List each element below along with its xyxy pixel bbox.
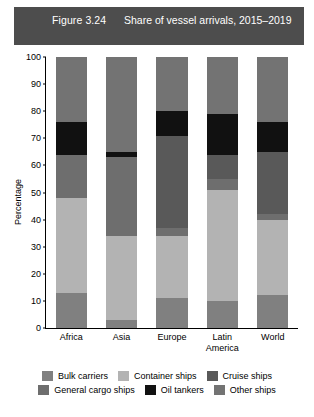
legend-item[interactable]: Oil tankers — [145, 385, 204, 395]
bar-segment[interactable] — [106, 320, 137, 328]
figure-number: Figure 3.24 — [52, 14, 106, 26]
stacked-bar[interactable]: Europe — [156, 57, 187, 328]
y-tick-label: 90 — [31, 79, 41, 89]
bar-segment[interactable] — [156, 136, 187, 228]
bar-segment[interactable] — [156, 57, 187, 111]
bar-segment[interactable] — [207, 114, 238, 155]
legend-label: Bulk carriers — [58, 371, 108, 381]
legend-item[interactable]: General cargo ships — [38, 385, 135, 395]
bar-segment[interactable] — [207, 155, 238, 179]
legend-swatch — [145, 385, 156, 395]
bar-segment[interactable] — [56, 155, 87, 198]
legend-swatch — [42, 371, 53, 381]
bar-segment[interactable] — [156, 228, 187, 236]
bar-segment[interactable] — [56, 122, 87, 155]
y-tick-mark — [43, 165, 46, 166]
bar-segment[interactable] — [106, 57, 137, 152]
bar-segment[interactable] — [257, 152, 288, 214]
y-tick-label: 50 — [31, 188, 41, 198]
stacked-bar[interactable]: Africa — [56, 57, 87, 328]
y-tick-mark — [43, 328, 46, 329]
legend-label: Oil tankers — [161, 385, 204, 395]
bar-segment[interactable] — [106, 236, 137, 320]
y-axis-title: Percentage — [13, 152, 23, 252]
chart-container: Percentage 0102030405060708090100 Africa… — [0, 45, 314, 345]
bar-segment[interactable] — [56, 293, 87, 328]
y-tick-label: 30 — [31, 242, 41, 252]
y-tick-mark — [43, 57, 46, 58]
y-tick-mark — [43, 138, 46, 139]
y-tick-mark — [43, 300, 46, 301]
bar-segment[interactable] — [106, 157, 137, 236]
y-tick-mark — [43, 246, 46, 247]
legend-swatch — [118, 371, 129, 381]
y-tick-label: 0 — [36, 323, 41, 333]
legend-label: Cruise ships — [223, 371, 273, 381]
legend-label: Other ships — [230, 385, 276, 395]
y-tick-mark — [43, 84, 46, 85]
bar-segment[interactable] — [156, 111, 187, 135]
y-tick-mark — [43, 273, 46, 274]
bar-segment[interactable] — [207, 190, 238, 301]
figure-title: Share of vessel arrivals, 2015–2019 — [124, 14, 299, 27]
y-tick-label: 60 — [31, 160, 41, 170]
y-tick-mark — [43, 192, 46, 193]
legend-row: Bulk carriersContainer shipsCruise ships — [0, 371, 314, 381]
bar-segment[interactable] — [257, 295, 288, 328]
bar-segment[interactable] — [207, 57, 238, 114]
bar-segment[interactable] — [56, 57, 87, 122]
bar-segment[interactable] — [207, 301, 238, 328]
y-tick-mark — [43, 219, 46, 220]
legend-label: Container ships — [134, 371, 197, 381]
y-tick-label: 100 — [26, 52, 41, 62]
y-tick-label: 10 — [31, 296, 41, 306]
y-tick-label: 20 — [31, 269, 41, 279]
stacked-bar[interactable]: Asia — [106, 57, 137, 328]
y-tick-label: 70 — [31, 133, 41, 143]
y-tick-label: 80 — [31, 106, 41, 116]
bar-segment[interactable] — [156, 236, 187, 298]
y-tick-label: 40 — [31, 215, 41, 225]
bar-segment[interactable] — [207, 179, 238, 190]
legend-item[interactable]: Bulk carriers — [42, 371, 108, 381]
stacked-bar[interactable]: World — [257, 57, 288, 328]
bar-segment[interactable] — [156, 298, 187, 328]
x-axis-label: Asia — [113, 332, 131, 343]
bar-segment[interactable] — [56, 198, 87, 293]
x-axis-label: World — [261, 332, 284, 343]
legend-swatch — [38, 385, 49, 395]
legend-row: General cargo shipsOil tankersOther ship… — [0, 385, 314, 395]
plot-area: 0102030405060708090100 AfricaAsiaEuropeL… — [45, 57, 298, 329]
bar-segment[interactable] — [257, 122, 288, 152]
stacked-bar[interactable]: Latin America — [207, 57, 238, 328]
chart-legend: Bulk carriersContainer shipsCruise ships… — [0, 371, 314, 399]
x-axis-label: Latin America — [206, 332, 239, 353]
legend-swatch — [207, 371, 218, 381]
legend-swatch — [214, 385, 225, 395]
bar-segment[interactable] — [257, 220, 288, 296]
figure-title-banner: Figure 3.24 Share of vessel arrivals, 20… — [14, 7, 304, 45]
legend-item[interactable]: Cruise ships — [207, 371, 273, 381]
legend-item[interactable]: Other ships — [214, 385, 276, 395]
x-axis-label: Africa — [60, 332, 83, 343]
x-axis-label: Europe — [157, 332, 186, 343]
legend-label: General cargo ships — [54, 385, 135, 395]
legend-item[interactable]: Container ships — [118, 371, 197, 381]
y-tick-mark — [43, 111, 46, 112]
bar-segment[interactable] — [257, 57, 288, 122]
